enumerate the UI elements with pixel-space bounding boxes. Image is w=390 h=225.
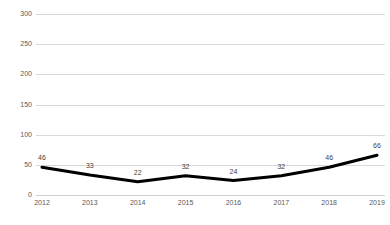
y-tick-label-50: 50 [6, 161, 32, 168]
x-tick-label-2015: 2015 [178, 199, 194, 207]
y-tick-label-200: 200 [6, 70, 32, 77]
y-tick-label-300: 300 [6, 10, 32, 17]
y-tick-label-0: 0 [6, 191, 32, 198]
y-tick-label-250: 250 [6, 40, 32, 47]
x-axis-tick-labels: 20122013201420152016201720182019 [36, 199, 385, 217]
x-tick-label-2014: 2014 [130, 199, 146, 207]
x-tick-label-2016: 2016 [226, 199, 242, 207]
data-label-2017: 32 [277, 163, 285, 171]
y-axis-tick-labels: 050100150200250300 [0, 14, 32, 195]
data-label-2013: 33 [86, 162, 94, 170]
x-tick-label-2018: 2018 [321, 199, 337, 207]
x-tick-label-2013: 2013 [82, 199, 98, 207]
plot-area: 4633223224324666 [36, 14, 385, 195]
y-tick-label-100: 100 [6, 131, 32, 138]
data-label-2016: 24 [230, 168, 238, 176]
x-tick-label-2012: 2012 [34, 199, 50, 207]
line-chart: 050100150200250300 4633223224324666 2012… [0, 0, 390, 225]
data-label-2012: 46 [38, 154, 46, 162]
data-label-2014: 22 [134, 169, 142, 177]
x-tick-label-2017: 2017 [273, 199, 289, 207]
y-tick-label-150: 150 [6, 101, 32, 108]
data-label-2018: 46 [325, 154, 333, 162]
gridline-0 [36, 195, 385, 196]
x-tick-label-2019: 2019 [369, 199, 385, 207]
data-label-2015: 32 [182, 163, 190, 171]
data-label-2019: 66 [373, 142, 381, 150]
